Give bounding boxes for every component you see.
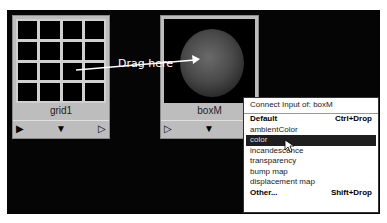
menu-item-transparency[interactable]: transparency	[244, 156, 378, 167]
menu-item-label: Default	[250, 114, 277, 123]
menu-item-ambientcolor[interactable]: ambientColor	[244, 125, 378, 136]
drag-here-label: Drag here	[118, 57, 173, 70]
menu-item-other[interactable]: Other... Shift+Drop	[244, 188, 378, 199]
mouse-cursor-icon	[284, 139, 294, 153]
menu-shortcut: Ctrl+Drop	[335, 114, 372, 125]
menu-item-incandescence[interactable]: incandescence	[244, 146, 378, 157]
menu-item-color[interactable]: color	[246, 135, 376, 146]
connect-input-menu: Connect Input of: boxM Default Ctrl+Drop…	[243, 97, 379, 213]
menu-item-bump-map[interactable]: bump map	[244, 167, 378, 178]
menu-item-label: Other...	[250, 188, 278, 197]
menu-title: Connect Input of: boxM	[244, 98, 378, 114]
menu-item-default[interactable]: Default Ctrl+Drop	[244, 114, 378, 125]
menu-shortcut: Shift+Drop	[331, 188, 372, 199]
menu-item-displacement-map[interactable]: displacement map	[244, 177, 378, 188]
